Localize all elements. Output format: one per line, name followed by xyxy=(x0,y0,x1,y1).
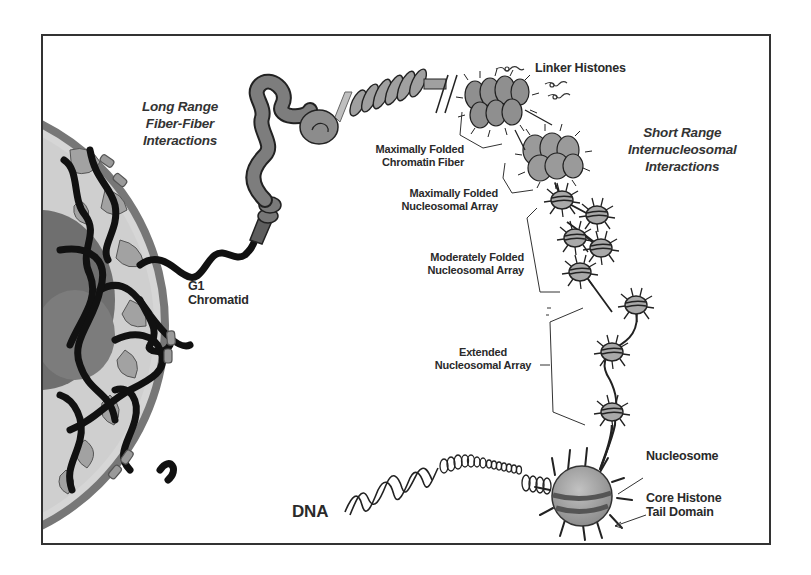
label-line: Maximally Folded xyxy=(362,143,464,156)
label-line: Nucleosomal Array xyxy=(386,200,498,213)
dna-double-helix xyxy=(345,455,551,515)
diagram-canvas: Long Range Fiber-Fiber Interactions Shor… xyxy=(0,0,811,575)
label-short-range: Short Range Internucleosomal Interaction… xyxy=(628,124,737,175)
label-mod-folded-array: Moderately Folded Nucleosomal Array xyxy=(412,251,524,277)
nucleosome-small xyxy=(583,231,619,265)
label-line: Core Histone xyxy=(646,491,721,505)
label-line: G1 xyxy=(188,279,249,293)
folded-fiber-cluster xyxy=(456,69,592,189)
label-max-folded-fiber: Maximally Folded Chromatin Fiber xyxy=(362,143,464,169)
label-max-folded-array: Maximally Folded Nucleosomal Array xyxy=(386,187,498,213)
label-core-histone: Core Histone Tail Domain xyxy=(646,491,721,519)
label-line: Tail Domain xyxy=(646,505,721,519)
extended-array xyxy=(594,288,654,470)
label-g1-chromatid: G1 Chromatid xyxy=(188,279,249,307)
label-line: Chromatid xyxy=(188,293,249,307)
label-dna: DNA xyxy=(292,503,328,521)
nucleosome-small xyxy=(618,288,654,322)
label-long-range: Long Range Fiber-Fiber Interactions xyxy=(142,98,218,149)
label-line: Nucleosomal Array xyxy=(428,359,538,372)
label-line: Moderately Folded xyxy=(412,251,524,264)
nucleosome-small xyxy=(594,395,630,429)
label-line: Nucleosomal Array xyxy=(412,264,524,277)
large-nucleosome xyxy=(535,425,632,540)
label-line: Long Range xyxy=(142,98,218,115)
nucleus-section xyxy=(0,100,190,550)
nucleosome-small xyxy=(544,183,580,217)
label-line: Chromatin Fiber xyxy=(362,156,464,169)
label-line: Interactions xyxy=(628,158,737,175)
label-line: Extended xyxy=(428,346,538,359)
nucleosome-small xyxy=(579,198,615,232)
nucleosome-small xyxy=(594,335,630,369)
moderately-folded-array xyxy=(544,183,619,312)
label-extended-array: Extended Nucleosomal Array xyxy=(428,346,538,372)
label-line: Maximally Folded xyxy=(386,187,498,200)
label-nucleosome: Nucleosome xyxy=(646,449,718,463)
label-line: Fiber-Fiber xyxy=(142,115,218,132)
label-line: Short Range xyxy=(628,124,737,141)
label-line: Interactions xyxy=(142,132,218,149)
label-linker-histones: Linker Histones xyxy=(535,61,626,75)
diagram-artwork xyxy=(0,0,811,575)
label-line: Internucleosomal xyxy=(628,141,737,158)
